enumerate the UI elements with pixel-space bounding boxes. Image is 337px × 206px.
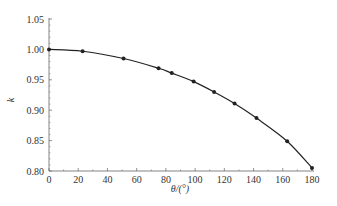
y-axis-label: k bbox=[5, 97, 16, 102]
axes: 0204060801001201401601800.800.850.900.95… bbox=[27, 14, 320, 186]
x-tick-label: 140 bbox=[246, 174, 261, 185]
y-tick-label: 1.05 bbox=[27, 14, 45, 25]
data-point-marker bbox=[233, 102, 237, 106]
x-tick-label: 120 bbox=[217, 174, 232, 185]
data-point-marker bbox=[192, 80, 196, 84]
x-tick-label: 100 bbox=[188, 174, 203, 185]
data-point-marker bbox=[157, 66, 161, 70]
x-tick-label: 180 bbox=[305, 174, 320, 185]
x-tick-label: 0 bbox=[47, 174, 52, 185]
y-tick-label: 1.00 bbox=[27, 44, 45, 55]
chart: 0204060801001201401601800.800.850.900.95… bbox=[0, 0, 337, 206]
y-tick-label: 0.85 bbox=[27, 135, 45, 146]
data-point-marker bbox=[212, 90, 216, 94]
x-tick-label: 40 bbox=[102, 174, 112, 185]
data-point-marker bbox=[122, 57, 126, 61]
fit-curve bbox=[49, 49, 312, 168]
data-point-marker bbox=[170, 71, 174, 75]
data-point-marker bbox=[285, 139, 289, 143]
y-tick-label: 0.90 bbox=[27, 105, 45, 116]
x-axis-label: θ/(°) bbox=[171, 183, 190, 195]
data-point-marker bbox=[254, 116, 258, 120]
x-tick-label: 160 bbox=[275, 174, 290, 185]
x-tick-label: 60 bbox=[132, 174, 142, 185]
data-point-marker bbox=[81, 49, 85, 53]
data-point-marker bbox=[47, 47, 51, 51]
x-tick-label: 80 bbox=[161, 174, 171, 185]
y-tick-label: 0.80 bbox=[27, 166, 45, 177]
data-point-marker bbox=[310, 166, 314, 170]
y-tick-label: 0.95 bbox=[27, 74, 45, 85]
x-tick-label: 20 bbox=[73, 174, 83, 185]
data-series bbox=[47, 47, 314, 170]
